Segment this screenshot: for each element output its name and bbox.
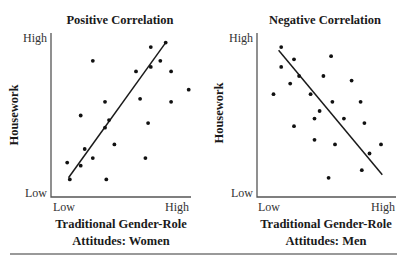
data-point [144,156,148,160]
data-point [318,109,322,113]
data-point [359,100,363,104]
y-axis-label: Housework [7,84,21,145]
data-point [322,74,326,78]
data-point [65,161,69,165]
data-point [297,74,301,78]
data-point [363,121,367,125]
data-point [313,117,317,121]
data-point [149,45,153,49]
data-point [169,100,173,104]
data-point [149,65,153,69]
data-point [350,79,354,83]
data-point [333,143,337,147]
data-point [279,45,283,49]
data-point [104,178,108,182]
x-tick-low: Low [258,200,280,214]
y-tick-high: High [23,31,47,45]
x-tick-low: Low [53,200,75,214]
panel-title: Positive Correlation [66,13,173,27]
y-tick-low: Low [25,186,47,200]
data-points [272,45,383,180]
negative-correlation-panel: Negative Correlation High Low Housework … [212,13,396,248]
y-tick-low: Low [231,186,253,200]
x-axis-label-line2: Attitudes: Men [286,234,367,248]
axes [257,33,396,197]
panel-title: Negative Correlation [269,13,381,27]
data-point [146,121,150,125]
x-axis-label-line1: Traditional Gender-Role [55,217,187,231]
correlation-figure: Positive Correlation High Low Housework … [0,0,404,259]
x-tick-high: High [165,200,189,214]
trend-line [279,50,383,175]
data-point [107,118,111,122]
data-point [272,92,276,96]
data-point [113,143,117,147]
data-point [91,156,95,160]
data-point [79,164,83,168]
x-axis-label-line1: Traditional Gender-Role [260,217,392,231]
data-point [292,57,296,61]
data-point [79,114,83,118]
y-axis-label: Housework [212,82,226,143]
data-point [342,117,346,121]
x-axis-label-line2: Attitudes: Women [72,234,169,248]
data-point [331,100,335,104]
data-point [379,143,383,147]
data-point [279,65,283,69]
data-point [103,126,107,130]
data-point [309,92,313,96]
data-point [360,168,364,172]
data-point [83,147,87,151]
trend-line [69,43,166,178]
data-point [169,70,173,74]
data-point [368,152,372,156]
data-point [327,176,331,180]
positive-correlation-panel: Positive Correlation High Low Housework … [7,13,191,248]
y-tick-high: High [229,31,253,45]
data-point [103,100,107,104]
data-point [68,178,72,182]
data-point [134,70,138,74]
data-point [329,54,333,58]
data-point [292,124,296,128]
x-tick-high: High [371,200,395,214]
data-point [313,138,317,142]
data-point [138,97,142,101]
data-point [158,59,162,63]
data-points [65,41,190,182]
data-point [288,82,292,86]
data-point [164,41,168,45]
data-point [187,88,191,92]
data-point [91,59,95,63]
